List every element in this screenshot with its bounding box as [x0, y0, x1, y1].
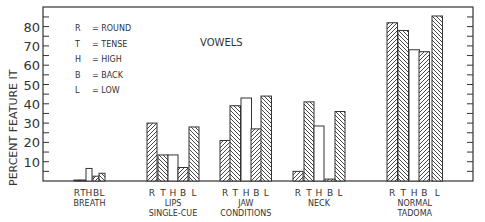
bar-H: [314, 126, 324, 181]
bar-L: [335, 112, 345, 181]
feature-tick-label: T: [232, 188, 239, 198]
feature-tick-label: T: [305, 188, 312, 198]
y-tick-label: 30: [23, 116, 40, 131]
x-axis-labels: RTHBLBREATHRTHBLLIPSSINGLE-CUERTHBLJAWCO…: [74, 188, 440, 218]
y-tick-label: 80: [23, 20, 40, 35]
feature-tick-label: B: [421, 188, 427, 198]
feature-tick-label: R: [389, 188, 395, 198]
feature-tick-label: T: [159, 188, 166, 198]
y-tick-label: 10: [23, 155, 40, 170]
feature-tick-label: L: [337, 188, 342, 198]
legend-text: = ROUND: [92, 24, 131, 33]
bar-T: [158, 155, 168, 181]
feature-tick-label: H: [86, 188, 93, 198]
legend-text: = TENSE: [92, 40, 127, 49]
y-tick-label: 50: [23, 78, 40, 93]
legend-key: L: [75, 86, 80, 95]
category-label: LIPS: [165, 199, 182, 208]
feature-tick-label: L: [99, 188, 104, 198]
feature-tick-label: H: [170, 188, 177, 198]
feature-tick-label: B: [327, 188, 333, 198]
category-label: JAW: [237, 199, 253, 208]
feature-tick-label: R: [74, 188, 80, 198]
bar-L: [432, 16, 443, 181]
bar-H: [168, 155, 178, 181]
bar-H: [241, 98, 252, 181]
legend-text: = BACK: [92, 71, 124, 80]
y-tick-label: 40: [23, 97, 40, 112]
feature-tick-label: B: [180, 188, 186, 198]
category-label: NORMAL: [397, 199, 432, 208]
feature-tick-label: R: [149, 188, 155, 198]
feature-tick-label: L: [191, 188, 196, 198]
y-tick-label: 70: [23, 39, 40, 54]
bar-chart: 1020304050607080 RTHBLBREATHRTHBLLIPSSIN…: [0, 0, 485, 222]
category-label: NECK: [308, 199, 331, 208]
bar-H: [409, 50, 420, 181]
bar-B: [419, 52, 430, 181]
legend-key: R: [75, 24, 81, 33]
bar-B: [93, 176, 99, 181]
feature-tick-label: L: [435, 188, 440, 198]
feature-tick-label: H: [243, 188, 250, 198]
bar-B: [251, 129, 262, 181]
bars: [74, 16, 443, 181]
bar-R: [74, 180, 80, 181]
bar-L: [189, 127, 199, 181]
legend-key: H: [75, 55, 81, 64]
bar-T: [80, 180, 86, 181]
feature-tick-label: B: [93, 188, 99, 198]
feature-tick-label: R: [222, 188, 228, 198]
legend-key: T: [74, 40, 80, 49]
category-label: SINGLE-CUE: [149, 209, 198, 218]
feature-tick-label: L: [264, 188, 269, 198]
legend-key: B: [75, 71, 81, 80]
bar-R: [147, 123, 157, 181]
legend-text: = LOW: [92, 86, 120, 95]
feature-tick-label: T: [400, 188, 407, 198]
bar-R: [387, 23, 398, 181]
legend-text: = HIGH: [92, 55, 122, 64]
category-label: BREATH: [74, 199, 106, 208]
feature-tick-label: R: [295, 188, 301, 198]
category-label: CONDITIONS: [220, 209, 271, 218]
bar-T: [398, 30, 409, 181]
bar-R: [220, 140, 231, 181]
feature-tick-label: H: [316, 188, 323, 198]
category-label: TADOMA: [396, 209, 432, 218]
bar-H: [86, 168, 92, 181]
feature-tick-label: B: [253, 188, 259, 198]
bar-B: [178, 167, 188, 181]
y-tick-label: 60: [23, 58, 40, 73]
bar-T: [304, 102, 314, 181]
legend: R= ROUNDT= TENSEH= HIGHB= BACKL= LOW: [74, 24, 131, 95]
bar-L: [99, 173, 105, 181]
bar-B: [325, 179, 335, 181]
bar-R: [293, 171, 303, 181]
chart-title: VOWELS: [200, 37, 243, 48]
y-axis-label: PERCENT FEATURE IT: [7, 69, 20, 186]
bar-T: [230, 106, 241, 181]
bar-L: [261, 96, 272, 181]
feature-tick-label: H: [411, 188, 418, 198]
y-tick-label: 20: [23, 135, 40, 150]
